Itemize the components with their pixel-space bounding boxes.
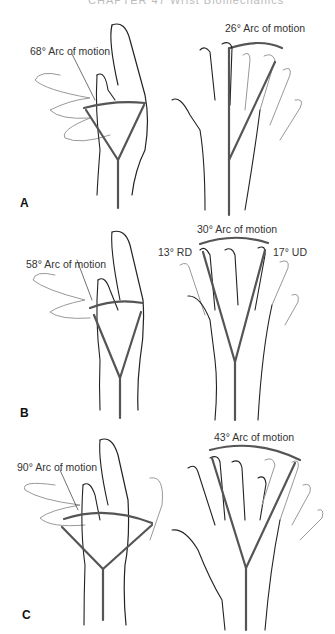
panel-b-right-arc-label: 30° Arc of motion: [197, 223, 277, 235]
panel-b-dorsal-hand: [180, 238, 298, 420]
panel-b-rd-label: 13° RD: [158, 246, 192, 258]
panel-a-left-arc-label: 68° Arc of motion: [30, 45, 110, 57]
panel-a-letter: A: [20, 196, 29, 210]
panel-c-right-arc-label: 43° Arc of motion: [214, 431, 294, 443]
panel-b-left-arc-label: 58° Arc of motion: [26, 258, 106, 270]
panel-a-dorsal-hand: [172, 43, 302, 215]
panel-b-letter: B: [20, 406, 29, 420]
panel-c-dorsal-hand: [172, 446, 323, 630]
panel-b-ud-label: 17° UD: [273, 246, 307, 258]
panel-c-left-arc-label: 90° Arc of motion: [17, 461, 97, 473]
panel-a-right-arc-label: 26° Arc of motion: [225, 22, 305, 34]
panel-c-letter: C: [22, 608, 31, 622]
hand-diagrams: [0, 0, 335, 634]
